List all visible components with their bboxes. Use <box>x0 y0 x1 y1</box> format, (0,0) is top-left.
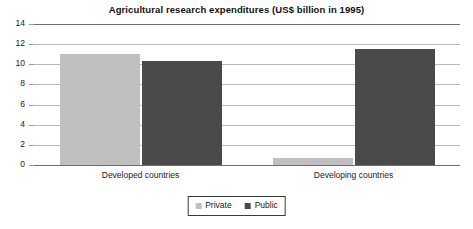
y-axis-tick-label-14: 14 <box>1 19 25 28</box>
y-axis-tick-mark-8 <box>29 84 34 85</box>
y-axis-tick-mark-4 <box>29 125 34 126</box>
y-axis-tick-label-10: 10 <box>1 59 25 68</box>
legend-label-public: Public <box>255 201 278 210</box>
y-axis-tick-mark-14 <box>29 24 34 25</box>
bar-public-developed-countries <box>142 61 222 165</box>
chart-title: Agricultural research expenditures (US$ … <box>0 4 473 15</box>
legend-item-public[interactable]: Public <box>245 201 278 210</box>
bar-public-developing-countries <box>355 49 435 165</box>
y-axis-tick-label-0: 0 <box>1 160 25 169</box>
chart-legend: PrivatePublic <box>187 196 286 216</box>
y-axis-tick-label-8: 8 <box>1 79 25 88</box>
gridline-0 <box>34 165 460 166</box>
y-axis-tick-mark-6 <box>29 105 34 106</box>
legend-swatch-private-icon <box>195 203 201 209</box>
y-axis-tick-mark-12 <box>29 44 34 45</box>
legend-item-private[interactable]: Private <box>195 201 231 210</box>
y-axis-tick-label-2: 2 <box>1 140 25 149</box>
bar-private-developed-countries <box>60 54 140 165</box>
bar-private-developing-countries <box>273 158 353 165</box>
y-axis-tick-label-4: 4 <box>1 120 25 129</box>
y-axis-tick-mark-10 <box>29 64 34 65</box>
y-axis-tick-label-6: 6 <box>1 100 25 109</box>
bars-layer <box>34 24 460 165</box>
category-label-developed-countries: Developed countries <box>34 170 247 180</box>
y-axis-tick-mark-2 <box>29 145 34 146</box>
y-axis-tick-mark-0 <box>29 165 34 166</box>
y-axis-tick-label-12: 12 <box>1 39 25 48</box>
legend-label-private: Private <box>205 201 231 210</box>
category-label-developing-countries: Developing countries <box>247 170 460 180</box>
legend-swatch-public-icon <box>245 203 251 209</box>
chart-container: Agricultural research expenditures (US$ … <box>0 0 473 229</box>
